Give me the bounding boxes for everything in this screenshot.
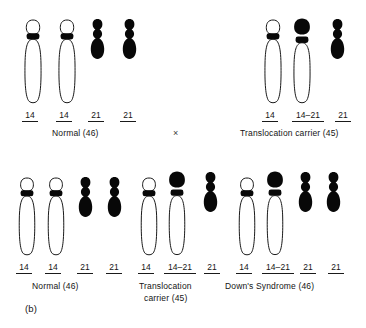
group-caption: Normal (46) <box>32 281 79 293</box>
chromosome-group-top-normal <box>22 18 142 104</box>
chromosome-21-glyph <box>329 18 346 60</box>
chromosome-label: 21 <box>328 262 344 274</box>
chromosome-21 <box>202 171 219 213</box>
chromosome-14-21-glyph <box>264 171 286 256</box>
chromosome-labels-top-translocation: 14 14–21 21 <box>262 110 351 122</box>
chromosome-label: 14–21 <box>262 262 294 274</box>
chromosome-21-glyph <box>202 171 219 213</box>
cross-symbol: × <box>173 128 178 138</box>
chromosome-21-glyph <box>325 171 342 213</box>
group-caption-line2: carrier (45) <box>144 293 187 305</box>
chromosome-label: 21 <box>300 262 316 274</box>
chromosome-label: 14 <box>45 262 61 274</box>
chromosome-14-21-glyph <box>291 18 313 104</box>
chromosome-14-glyph <box>45 176 67 256</box>
chromosome-21 <box>121 18 138 60</box>
chromosome-14-glyph <box>56 18 78 104</box>
chromosome-21-glyph <box>121 18 138 60</box>
chromosome-14-glyph <box>236 176 258 256</box>
chromosome-14 <box>16 176 38 256</box>
chromosome-21 <box>297 171 314 213</box>
chromosome-14-glyph <box>262 18 284 104</box>
chromosome-14-glyph <box>16 176 38 256</box>
chromosome-group-bottom-downs <box>236 171 361 256</box>
chromosome-label: 14 <box>16 262 32 274</box>
chromosome-21-glyph <box>77 176 94 218</box>
chromosome-labels-bottom-normal: 14 14 21 21 <box>16 262 122 274</box>
group-caption: Translocation <box>139 281 192 293</box>
chromosome-21 <box>89 18 106 60</box>
chromosome-14 <box>56 18 78 104</box>
chromosome-21 <box>325 171 342 213</box>
chromosome-label: 14 <box>236 262 252 274</box>
chromosome-label: 14–21 <box>164 262 196 274</box>
chromosome-label: 21 <box>204 262 220 274</box>
group-caption: Translocation carrier (45) <box>240 128 339 140</box>
chromosome-labels-bottom-downs: 14 14–21 21 21 <box>236 262 344 274</box>
chromosome-label: 14 <box>22 110 38 122</box>
chromosome-21 <box>106 176 123 218</box>
group-caption: Down's Syndrome (46) <box>225 281 314 293</box>
chromosome-translocation-figure: 14 14 21 21 Normal (46) × 1 <box>0 0 366 328</box>
chromosome-label: 14 <box>56 110 72 122</box>
chromosome-label: 14–21 <box>292 110 324 122</box>
chromosome-label: 14 <box>138 262 154 274</box>
chromosome-label: 21 <box>106 262 122 274</box>
chromosome-group-bottom-translocation <box>138 171 238 256</box>
chromosome-labels-bottom-translocation: 14 14–21 21 <box>138 262 220 274</box>
chromosome-14-21-translocation <box>291 18 313 104</box>
panel-tag: (b) <box>25 303 37 314</box>
chromosome-14-21-translocation <box>166 171 188 256</box>
chromosome-14 <box>45 176 67 256</box>
chromosome-14 <box>22 18 44 104</box>
chromosome-14 <box>236 176 258 256</box>
chromosome-21-glyph <box>89 18 106 60</box>
chromosome-14 <box>138 176 160 256</box>
group-caption: Normal (46) <box>52 128 99 140</box>
chromosome-14 <box>262 18 284 104</box>
chromosome-group-bottom-normal <box>16 176 136 256</box>
chromosome-21-glyph <box>106 176 123 218</box>
chromosome-14-21-glyph <box>166 171 188 256</box>
chromosome-label: 21 <box>335 110 351 122</box>
chromosome-21 <box>77 176 94 218</box>
chromosome-label: 21 <box>77 262 93 274</box>
chromosome-14-glyph <box>22 18 44 104</box>
chromosome-labels-top-normal: 14 14 21 21 <box>22 110 136 122</box>
chromosome-14-glyph <box>138 176 160 256</box>
chromosome-group-top-translocation <box>262 18 362 104</box>
chromosome-label: 21 <box>88 110 104 122</box>
chromosome-label: 21 <box>120 110 136 122</box>
chromosome-21 <box>329 18 346 60</box>
chromosome-14-21-translocation <box>264 171 286 256</box>
chromosome-label: 14 <box>262 110 278 122</box>
chromosome-21-glyph <box>297 171 314 213</box>
